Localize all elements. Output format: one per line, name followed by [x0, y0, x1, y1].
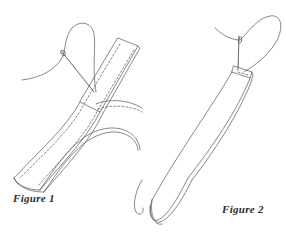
thread-icon — [215, 16, 281, 72]
thread-icon — [22, 23, 96, 92]
figure-1-caption: Figure 1 — [13, 192, 55, 204]
illustration-canvas: Figure 1 Figure 2 — [0, 0, 286, 234]
figure-2-caption: Figure 2 — [222, 203, 264, 215]
figure-1-drawing — [14, 23, 143, 214]
figure-2-drawing — [150, 16, 281, 224]
